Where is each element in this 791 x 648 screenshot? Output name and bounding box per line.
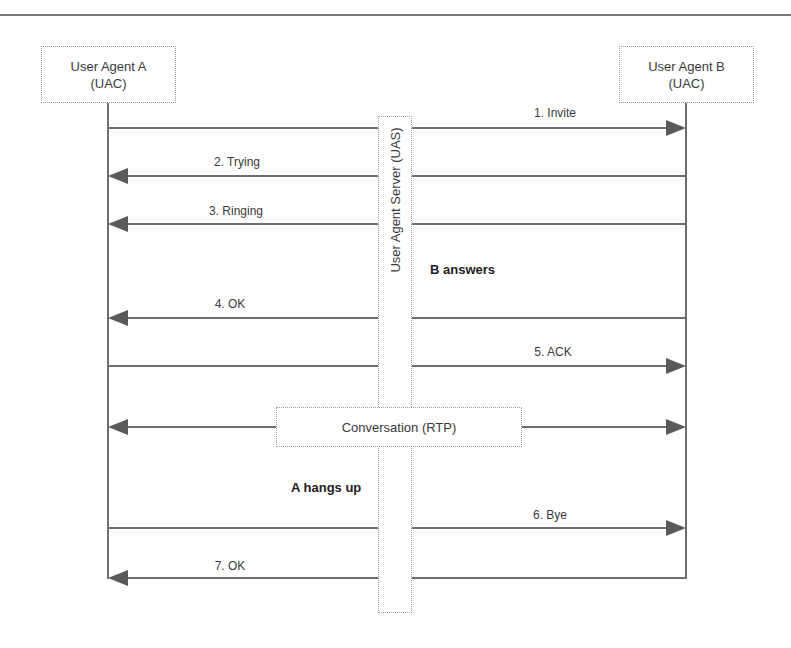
label-invite: 1. Invite [534, 106, 576, 120]
label-ok-2: 7. OK [215, 559, 246, 573]
arrowhead-right-icon [666, 120, 686, 136]
arrowhead-right-icon [666, 520, 686, 536]
arrowhead-left-icon [108, 570, 128, 586]
label-trying: 2. Trying [214, 155, 260, 169]
arrowhead-right-icon [666, 419, 686, 435]
conversation-box: Conversation (RTP) [276, 407, 522, 447]
arrowhead-left-icon [108, 310, 128, 326]
server-label: User Agent Server (UAS) [388, 127, 403, 272]
label-bye: 6. Bye [533, 508, 567, 522]
arrowhead-left-icon [108, 419, 128, 435]
arrowhead-left-icon [108, 168, 128, 184]
label-ok-1: 4. OK [215, 297, 246, 311]
note-a-hangs-up: A hangs up [291, 480, 361, 495]
arrowhead-right-icon [666, 358, 686, 374]
note-b-answers: B answers [430, 262, 495, 277]
conversation-label: Conversation (RTP) [342, 420, 457, 435]
arrowhead-left-icon [108, 216, 128, 232]
label-ringing: 3. Ringing [209, 204, 263, 218]
label-ack: 5. ACK [534, 345, 571, 359]
